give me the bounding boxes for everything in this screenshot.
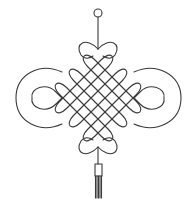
lower-right-lobe [116, 116, 127, 127]
lower-left-lobe [69, 116, 80, 127]
chinese-knot-illustration [0, 0, 185, 210]
tassel-bead [95, 164, 102, 176]
hanging-ring [94, 9, 102, 17]
upper-left-lobe [83, 55, 94, 66]
right-inner-loop [134, 87, 164, 109]
upper-right-lobe [116, 69, 127, 80]
right-outer-loop [134, 68, 181, 127]
upper-left-lobe [69, 69, 80, 80]
chinese-knot-drawing [0, 0, 185, 210]
lower-left-lobe [83, 130, 94, 141]
upper-right-lobe [102, 55, 113, 66]
lower-right-lobe [102, 130, 113, 141]
left-inner-loop [32, 87, 62, 109]
left-outer-loop [16, 68, 62, 127]
